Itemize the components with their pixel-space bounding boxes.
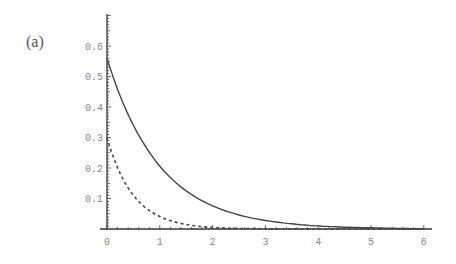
x-tick-label: 5 xyxy=(368,237,374,248)
x-tick-label: 0 xyxy=(104,237,110,248)
x-tick-label: 3 xyxy=(262,237,268,248)
y-tick-label: 0.1 xyxy=(85,194,103,205)
y-tick-label: 0.5 xyxy=(85,72,103,83)
y-tick-label: 0.2 xyxy=(85,164,103,175)
x-tick-label: 4 xyxy=(315,237,321,248)
y-tick-label: 0.4 xyxy=(85,103,103,114)
x-tick-label: 2 xyxy=(210,237,216,248)
line-chart: 01234560.10.20.30.40.50.6 xyxy=(0,0,456,264)
x-tick-label: 6 xyxy=(421,237,427,248)
y-tick-label: 0.6 xyxy=(85,42,103,53)
axes xyxy=(100,14,432,230)
y-tick-label: 0.3 xyxy=(85,133,103,144)
x-tick-label: 1 xyxy=(157,237,163,248)
plot-area xyxy=(107,58,424,229)
dashed-curve xyxy=(107,138,424,230)
solid-curve xyxy=(107,58,424,229)
